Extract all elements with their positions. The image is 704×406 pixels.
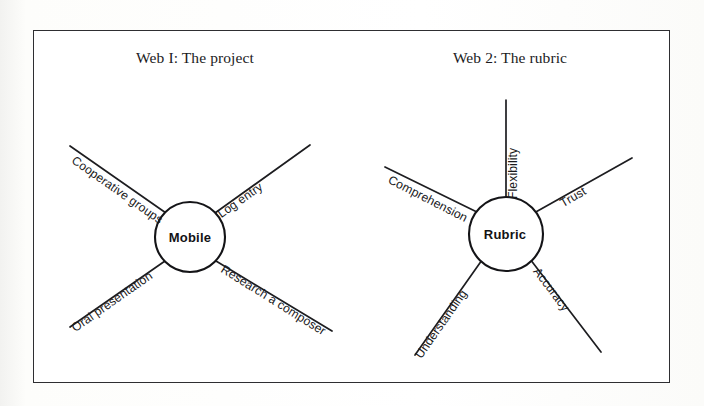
web-2-hub-label: Rubric	[455, 227, 555, 242]
web-1-title: Web I: The project	[95, 49, 295, 67]
spoke-label: Flexibility	[506, 148, 520, 199]
spoke-line	[70, 146, 166, 213]
web-2-title: Web 2: The rubric	[410, 49, 610, 67]
scanned-page: Web I: The project Web 2: The rubric Mob…	[0, 0, 704, 406]
web-1-hub-label: Mobile	[140, 230, 240, 245]
